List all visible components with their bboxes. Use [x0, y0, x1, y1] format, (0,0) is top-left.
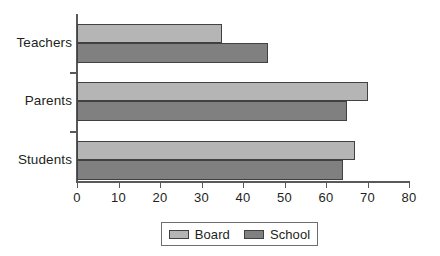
category-label-students: Students: [0, 152, 72, 167]
category-label-parents: Parents: [0, 93, 72, 108]
x-tick-label: 70: [348, 190, 388, 205]
x-tick-label: 40: [223, 190, 263, 205]
legend-swatch-school-icon: [244, 230, 264, 239]
bar-chart: 01020304050607080 TeachersParentsStudent…: [0, 0, 440, 256]
x-tick-label: 50: [265, 190, 305, 205]
bar-students-board: [77, 141, 355, 160]
x-tick-label: 20: [140, 190, 180, 205]
x-tick-mark: [285, 183, 286, 188]
bar-students-school: [77, 160, 343, 180]
x-tick-mark: [326, 183, 327, 188]
legend-label-school: School: [270, 227, 310, 242]
x-tick-mark: [409, 183, 410, 188]
x-tick-label: 10: [99, 190, 139, 205]
legend-entry-board[interactable]: Board: [169, 227, 230, 242]
category-label-teachers: Teachers: [0, 35, 72, 50]
legend-swatch-board-icon: [169, 230, 189, 239]
x-tick-label: 60: [306, 190, 346, 205]
x-tick-mark: [202, 183, 203, 188]
bar-parents-board: [77, 82, 368, 101]
x-tick-mark: [119, 183, 120, 188]
x-tick-mark: [243, 183, 244, 188]
bar-teachers-board: [77, 24, 222, 43]
x-tick-mark: [77, 183, 78, 188]
bar-teachers-school: [77, 43, 268, 63]
chart-legend: BoardSchool: [161, 222, 318, 246]
legend-entry-school[interactable]: School: [244, 227, 310, 242]
legend-label-board: Board: [195, 227, 230, 242]
y-tick-mark: [70, 131, 76, 133]
x-tick-mark: [368, 183, 369, 188]
bar-parents-school: [77, 101, 347, 121]
x-tick-label: 0: [57, 190, 97, 205]
y-tick-mark: [70, 72, 76, 74]
x-tick-label: 80: [389, 190, 429, 205]
x-tick-label: 30: [182, 190, 222, 205]
x-tick-mark: [160, 183, 161, 188]
